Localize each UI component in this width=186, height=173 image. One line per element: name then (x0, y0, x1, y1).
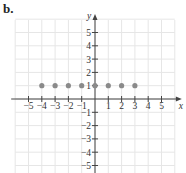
data-point (79, 83, 84, 88)
x-axis-label: x (178, 101, 184, 111)
y-tick-label: −1 (81, 108, 91, 118)
y-tick-label: 2 (86, 68, 91, 78)
data-point (106, 83, 111, 88)
y-tick-label: −2 (81, 121, 91, 131)
data-point (92, 83, 97, 88)
y-tick-label: 3 (86, 55, 91, 65)
x-tick-label: −4 (37, 101, 47, 111)
x-tick-label: −3 (50, 101, 60, 111)
x-tick-label: 3 (133, 101, 138, 111)
data-point (66, 83, 71, 88)
x-tick-label: 1 (106, 101, 111, 111)
y-tick-label: 1 (86, 81, 91, 91)
coordinate-plane: xy−5−4−3−2−11234554321−1−2−3−4−5 (0, 0, 186, 173)
y-tick-label: −4 (81, 148, 91, 158)
x-tick-label: 4 (146, 101, 151, 111)
data-point (39, 83, 44, 88)
x-tick-label: −2 (63, 101, 73, 111)
x-tick-label: −5 (23, 101, 33, 111)
y-tick-label: 5 (86, 28, 91, 38)
y-axis-label: y (86, 11, 92, 21)
y-tick-label: 4 (86, 41, 91, 51)
data-point (132, 83, 137, 88)
y-tick-label: −3 (81, 134, 91, 144)
y-tick-label: −5 (81, 161, 91, 171)
x-tick-label: 2 (119, 101, 124, 111)
y-axis-arrow-icon (93, 14, 98, 20)
data-point (119, 83, 124, 88)
data-point (53, 83, 58, 88)
x-tick-label: 5 (159, 101, 164, 111)
